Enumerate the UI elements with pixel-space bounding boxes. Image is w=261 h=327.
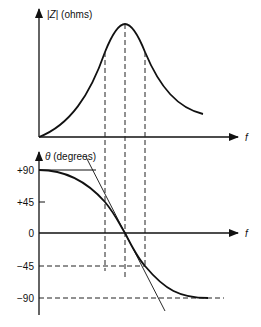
ytick-minus45: −45: [17, 261, 34, 272]
phase-plot: θ (degrees) f +90 +45 0 −45 −90: [17, 151, 249, 315]
theta-curve: [39, 170, 208, 298]
z-curve: [39, 24, 203, 137]
ytick-plus90: +90: [17, 165, 34, 176]
ytick-zero: 0: [28, 228, 34, 239]
theta-xlabel: f: [245, 228, 249, 239]
z-ylabel: |Z| (ohms): [47, 9, 92, 20]
theta-ylabel: θ (degrees): [45, 151, 96, 162]
ytick-minus90: −90: [17, 293, 34, 304]
ytick-plus45: +45: [17, 197, 34, 208]
impedance-plot: |Z| (ohms) f: [39, 9, 249, 143]
diagram: |Z| (ohms) f θ (degrees) f +90 +45 0 −45…: [0, 0, 261, 327]
z-xlabel: f: [245, 132, 249, 143]
